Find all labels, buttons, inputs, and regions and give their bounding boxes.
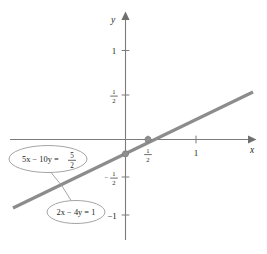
fraction-numerator: 5: [70, 152, 74, 160]
x-axis-label: x: [249, 145, 255, 155]
y-tick-label-neg-half: − 1 2: [105, 170, 118, 186]
fraction-denominator: 2: [70, 162, 74, 170]
y-tick-label-neg-one: −1: [107, 211, 117, 221]
fraction-denominator: 2: [112, 179, 115, 186]
x-tick-label-half: 1 2: [144, 147, 152, 163]
callout-5x-10y[interactable]: 5x − 10y = 5 2: [9, 146, 87, 173]
y-axis-arrowhead: [121, 12, 129, 21]
callout-equation-lhs: 5x − 10y =: [22, 155, 59, 164]
fraction-denominator: 2: [112, 97, 115, 104]
y-axis: [121, 12, 129, 241]
x-axis-arrowhead: [248, 135, 257, 143]
point-x-intercept: [145, 136, 151, 142]
fraction-denominator: 2: [146, 156, 149, 163]
callout-2x-4y[interactable]: 2x − 4y = 1: [47, 201, 105, 224]
fraction-minus-sign: −: [105, 174, 109, 181]
callout-equation: 2x − 4y = 1: [57, 208, 96, 217]
figure-canvas: y x 1 1 2 − 1 2 −1 1 2 1: [0, 0, 267, 254]
y-axis-label: y: [110, 15, 116, 25]
fraction-numerator: 1: [146, 147, 149, 154]
point-y-intercept: [122, 151, 128, 157]
coordinate-plane-graph: y x 1 1 2 − 1 2 −1 1 2 1: [0, 0, 267, 254]
x-axis: [10, 135, 257, 143]
y-tick-label-one: 1: [112, 46, 117, 56]
x-tick-label-one: 1: [194, 148, 199, 158]
fraction-numerator: 1: [112, 88, 115, 95]
fraction-numerator: 1: [112, 170, 115, 177]
leader-line-callout-2x-4y: [62, 186, 72, 202]
y-tick-label-half: 1 2: [110, 88, 118, 104]
